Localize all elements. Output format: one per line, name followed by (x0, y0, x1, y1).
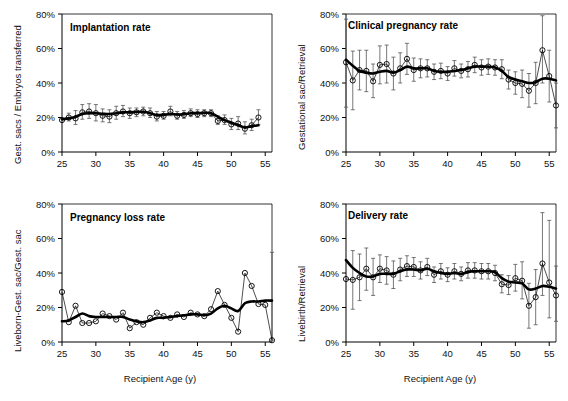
svg-text:40: 40 (442, 158, 453, 169)
svg-text:80%: 80% (36, 9, 56, 20)
panel-4-y-axis-label: Livebirth/Retrieval (296, 266, 307, 342)
svg-text:35: 35 (124, 348, 135, 359)
svg-text:55: 55 (260, 348, 271, 359)
svg-text:40%: 40% (320, 78, 340, 89)
panel-2-title: Clinical pregnancy rate (348, 20, 458, 31)
panel-1-title: Implantation rate (70, 22, 151, 33)
svg-text:25: 25 (341, 158, 352, 169)
svg-text:45: 45 (476, 158, 487, 169)
svg-text:40: 40 (158, 348, 169, 359)
svg-text:55: 55 (260, 158, 271, 169)
panel-delivery-rate: Livebirth/Retrieval Delivery rate 0%20%4… (284, 190, 568, 401)
svg-text:40%: 40% (320, 268, 340, 279)
svg-text:25: 25 (57, 158, 68, 169)
panel-2-y-axis-label: Gestational sac/Retrieval (296, 44, 307, 150)
svg-text:30: 30 (91, 348, 102, 359)
svg-text:35: 35 (408, 158, 419, 169)
svg-text:20%: 20% (320, 112, 340, 123)
svg-text:30: 30 (375, 348, 386, 359)
svg-text:50: 50 (510, 158, 521, 169)
svg-text:20%: 20% (320, 302, 340, 313)
panel-1-y-axis-label: Gest. sacs / Embryos transferred (12, 25, 23, 164)
svg-text:0%: 0% (325, 337, 339, 348)
svg-text:45: 45 (192, 158, 203, 169)
svg-text:40: 40 (158, 158, 169, 169)
panel-3-x-axis-label: Recipient Age (y) (60, 373, 260, 384)
svg-text:60%: 60% (320, 43, 340, 54)
svg-text:20%: 20% (36, 112, 56, 123)
figure-container: Gest. sacs / Embryos transferred Implant… (0, 0, 568, 401)
svg-text:0%: 0% (41, 147, 55, 158)
svg-text:35: 35 (408, 348, 419, 359)
svg-text:60%: 60% (36, 233, 56, 244)
panel-implantation-rate: Gest. sacs / Embryos transferred Implant… (0, 0, 284, 190)
panel-3-title: Pregnancy loss rate (70, 212, 165, 223)
svg-text:25: 25 (57, 348, 68, 359)
svg-text:50: 50 (226, 348, 237, 359)
svg-text:55: 55 (544, 158, 555, 169)
svg-text:40: 40 (442, 348, 453, 359)
svg-text:35: 35 (124, 158, 135, 169)
svg-text:0%: 0% (325, 147, 339, 158)
panel-4-x-axis-label: Recipient Age (y) (340, 373, 540, 384)
panel-pregnancy-loss-rate: Liveborn-Gest. sac/Gest. sac Pregnancy l… (0, 190, 284, 401)
svg-text:80%: 80% (36, 199, 56, 210)
svg-text:25: 25 (341, 348, 352, 359)
panel-4-plot: 0%20%40%60%80%25303540455055 (284, 190, 568, 380)
svg-text:20%: 20% (36, 302, 56, 313)
svg-text:0%: 0% (41, 337, 55, 348)
svg-text:60%: 60% (36, 43, 56, 54)
svg-text:80%: 80% (320, 199, 340, 210)
svg-text:80%: 80% (320, 9, 340, 20)
svg-text:45: 45 (192, 348, 203, 359)
svg-text:30: 30 (375, 158, 386, 169)
svg-text:55: 55 (544, 348, 555, 359)
svg-text:50: 50 (510, 348, 521, 359)
svg-text:40%: 40% (36, 78, 56, 89)
svg-text:60%: 60% (320, 233, 340, 244)
panel-4-title: Delivery rate (348, 210, 408, 221)
svg-text:40%: 40% (36, 268, 56, 279)
panel-3-y-axis-label: Liveborn-Gest. sac/Gest. sac (12, 230, 23, 353)
svg-text:30: 30 (91, 158, 102, 169)
panel-clinical-pregnancy-rate: Gestational sac/Retrieval Clinical pregn… (284, 0, 568, 190)
svg-text:50: 50 (226, 158, 237, 169)
svg-text:45: 45 (476, 348, 487, 359)
